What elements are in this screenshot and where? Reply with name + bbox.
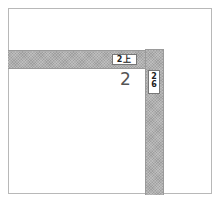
vertical-wall-label: 2 6 bbox=[148, 70, 160, 94]
vertical-wall-label-bottom: 6 bbox=[149, 81, 159, 89]
horizontal-wall-label: 2上 bbox=[112, 54, 137, 65]
diagram-frame bbox=[8, 8, 212, 194]
room-number: 2 bbox=[120, 71, 131, 88]
